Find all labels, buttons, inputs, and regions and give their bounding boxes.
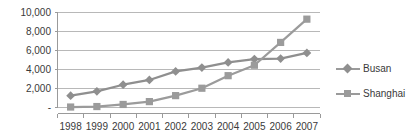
data-point-busan	[224, 58, 233, 67]
legend-item-busan[interactable]: Busan	[336, 64, 391, 74]
y-axis-tick-label: -	[0, 103, 51, 113]
series-line-shanghai	[71, 19, 307, 107]
data-point-shanghai	[251, 62, 258, 69]
axes	[55, 13, 58, 108]
data-point-shanghai	[303, 16, 310, 23]
data-point-busan	[302, 48, 311, 57]
square-marker-icon	[344, 90, 351, 97]
y-axis-tick-label: 4,000	[0, 65, 51, 75]
series-layer	[66, 16, 311, 111]
data-point-shanghai	[277, 39, 284, 46]
y-axis-tick-label: 6,000	[0, 46, 51, 56]
data-point-shanghai	[93, 103, 100, 110]
y-axis-tick-label: 2,000	[0, 84, 51, 94]
data-point-shanghai	[198, 85, 205, 92]
data-point-shanghai	[172, 92, 179, 99]
legend-swatch-busan	[336, 64, 360, 74]
diamond-marker-icon	[343, 64, 353, 74]
series-line-busan	[71, 53, 307, 96]
data-point-busan	[171, 67, 180, 76]
data-point-shanghai	[146, 98, 153, 105]
y-axis-tick-label: 10,000	[0, 8, 51, 18]
data-point-busan	[66, 91, 75, 100]
legend-swatch-shanghai	[336, 89, 360, 99]
data-point-busan	[276, 54, 285, 63]
data-point-busan	[145, 76, 154, 85]
legend-item-shanghai[interactable]: Shanghai	[336, 89, 405, 99]
data-point-shanghai	[120, 101, 127, 108]
line-chart: -2,0004,0006,0008,00010,000 199819992000…	[0, 0, 408, 140]
data-point-shanghai	[67, 103, 74, 110]
data-point-busan	[197, 63, 206, 72]
legend-label-shanghai: Shanghai	[363, 89, 405, 99]
y-axis-tick-label: 8,000	[0, 27, 51, 37]
x-axis-tick-label: 2007	[291, 122, 323, 132]
data-point-busan	[119, 80, 128, 89]
data-point-shanghai	[225, 72, 232, 79]
legend-label-busan: Busan	[363, 64, 391, 74]
x-axis-ticks	[58, 114, 321, 118]
